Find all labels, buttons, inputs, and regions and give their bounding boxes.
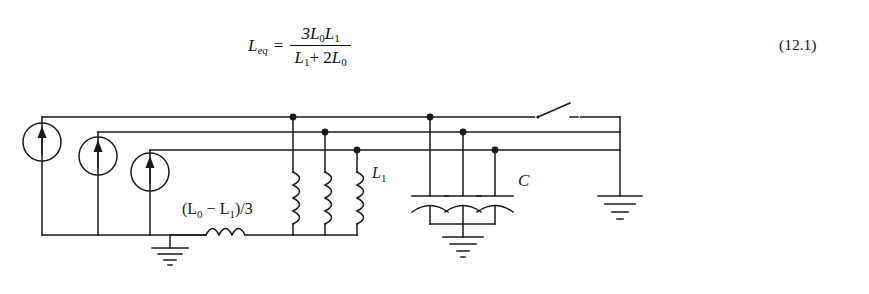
series-inductor-label-open: (L xyxy=(182,200,197,218)
equation-fraction: 3L0L1 L1+ 2L0 xyxy=(290,24,350,69)
junction-dot-a1 xyxy=(290,114,297,121)
ground-capacitor-neutral xyxy=(443,224,483,257)
shunt-inductor-b-coils xyxy=(325,172,332,224)
figure-page: Leq = 3L0L1 L1+ 2L0 (12.1) xyxy=(0,0,869,294)
junction-dots xyxy=(290,114,499,154)
junction-dot-c2 xyxy=(492,147,499,154)
equation-12-1: Leq = 3L0L1 L1+ 2L0 xyxy=(248,24,351,69)
shunt-inductor-label: L1 xyxy=(371,164,386,184)
shunt-inductor-b[interactable] xyxy=(325,132,332,235)
junction-dot-b1 xyxy=(322,129,329,136)
ground-source-neutral xyxy=(152,235,188,265)
circuit-diagram: (L0 − L1)/3 L1 C xyxy=(0,96,869,294)
ground-system-neutral xyxy=(598,196,642,219)
shunt-inductor-a-coils xyxy=(293,172,300,224)
equation-number: (12.1) xyxy=(779,36,816,54)
equation-lhs: Leq xyxy=(248,36,268,56)
junction-dot-b2 xyxy=(460,129,467,136)
current-source-b-arrow-head xyxy=(94,140,103,152)
shunt-inductor-label-sub: 1 xyxy=(381,172,387,184)
junction-dot-a2 xyxy=(427,114,434,121)
equation-numerator: 3L0L1 xyxy=(297,24,343,45)
shunt-inductor-label-main: L xyxy=(371,164,381,181)
capacitor-b[interactable] xyxy=(445,132,481,224)
series-inductor-label: (L0 − L1)/3 xyxy=(182,200,253,220)
equation-denominator: L1+ 2L0 xyxy=(290,46,350,68)
series-inductor-label-minus: − L xyxy=(203,200,230,217)
denominator-sub-0: 0 xyxy=(341,56,347,68)
equation-lhs-subscript: eq xyxy=(257,44,267,56)
current-source-a-arrow-head xyxy=(38,126,47,138)
capacitor-a[interactable] xyxy=(412,117,448,224)
current-source-c-arrow-head xyxy=(146,156,155,168)
series-inductor-coils xyxy=(206,229,245,236)
shunt-inductor-a[interactable] xyxy=(293,117,300,235)
series-inductor-label-tail: )/3 xyxy=(235,200,253,218)
junction-dot-c1 xyxy=(354,147,361,154)
shunt-inductor-c-coils xyxy=(357,172,364,224)
capacitor-label: C xyxy=(518,171,530,190)
open-switch[interactable] xyxy=(536,103,578,119)
numerator-sub-1: 1 xyxy=(334,32,340,44)
capacitor-c[interactable] xyxy=(477,150,513,224)
open-switch-blade xyxy=(538,103,570,117)
equation-relation: = xyxy=(274,36,284,56)
shunt-inductor-c[interactable] xyxy=(357,150,364,235)
